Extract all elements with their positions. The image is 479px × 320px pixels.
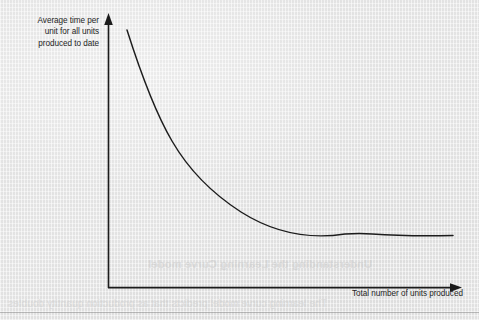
x-axis-label: Total number of units produced [352, 289, 463, 299]
figure-canvas: Understanding the Learning Curve model T… [0, 0, 479, 320]
y-axis-label: Average time per unit for all units prod… [4, 15, 99, 49]
y-axis-arrowhead [104, 13, 113, 25]
learning-curve-line [127, 30, 453, 236]
